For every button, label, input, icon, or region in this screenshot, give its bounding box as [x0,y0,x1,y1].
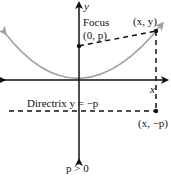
y-axis-label: y [83,0,89,12]
directrix-label: Directrix y = −p [27,97,99,109]
point-label: (x, y) [133,15,157,28]
condition-label: p > 0 [66,162,89,174]
focus-coordinates-label: (0, p) [83,29,107,42]
x-axis-label: x [149,83,155,95]
parabola-point [154,29,158,33]
focus-label: Focus [83,16,109,28]
focus-point [77,44,81,48]
directrix-point-label: (x, −p) [138,117,168,130]
parabola-diagram: y Focus (0, p) (x, y) x Directrix y = −p… [0,0,171,176]
directrix-point [154,109,158,113]
